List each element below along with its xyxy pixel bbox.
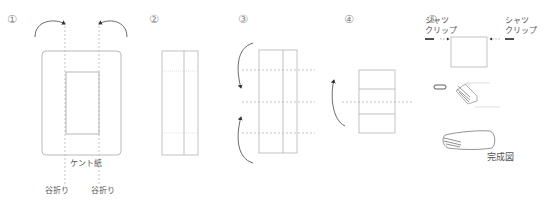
shirt-clip-label-right-2: クリップ: [505, 27, 537, 35]
step-number-3: ③: [238, 14, 248, 25]
clip-insert-icon: [434, 85, 446, 89]
shirt-clip-label-left-2: クリップ: [425, 27, 457, 35]
fold-up-arrow-icon: [238, 117, 253, 163]
folded-paper: [451, 37, 487, 67]
valley-fold-label-right: 谷折り: [91, 187, 115, 195]
folding-diagram: [0, 0, 546, 200]
completed-item-icon: [443, 131, 495, 150]
completed-label: 完成図: [487, 153, 514, 162]
shirt-clip-label-left-1: シャツ: [425, 17, 449, 25]
fold-arrow-left-icon: [35, 21, 65, 37]
kent-paper-outline: [42, 51, 121, 155]
fold-arrow-right-icon: [99, 21, 127, 37]
inner-panel: [66, 72, 99, 134]
step3-diagram: [238, 43, 315, 163]
step-number-2: ②: [149, 14, 159, 25]
step5-diagram: [425, 37, 514, 150]
valley-fold-label-left: 谷折り: [45, 187, 69, 195]
step-number-1: ①: [7, 14, 17, 25]
step2-diagram: [162, 51, 198, 155]
fold-down-arrow-icon: [238, 43, 253, 88]
kent-paper-label: ケント紙: [70, 160, 102, 168]
fold-up-arrow-icon: [332, 80, 345, 126]
step-number-4: ④: [344, 14, 354, 25]
step4-diagram: [332, 70, 414, 133]
shirt-clip-label-right-1: シャツ: [505, 17, 529, 25]
